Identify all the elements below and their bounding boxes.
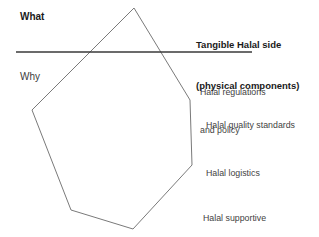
label-why: Why: [20, 71, 40, 84]
list-item-line-1: Halal logistics: [206, 167, 260, 180]
heading-line-1: Tangible Halal side: [196, 38, 299, 52]
list-item-line-1: Halal quality standards: [206, 119, 295, 132]
list-item-line-1: Halal supportive: [203, 212, 291, 225]
diagram-canvas: What Why Tangible Halal side (physical c…: [0, 0, 319, 237]
label-what: What: [20, 11, 44, 24]
list-item-halal-supportive-services: Halal supportive services (finance, etc.…: [203, 186, 291, 237]
heptagon-shape: [32, 8, 192, 229]
